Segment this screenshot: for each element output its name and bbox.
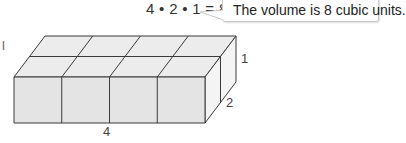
length-label: 4	[103, 124, 110, 139]
height-label: 1	[241, 51, 248, 66]
width-label: 2	[226, 95, 233, 110]
